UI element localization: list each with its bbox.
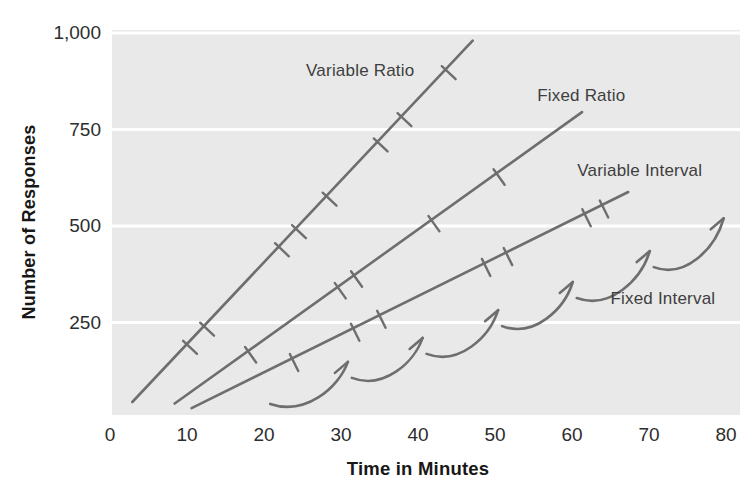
x-tick-label: 20 [242, 424, 286, 446]
x-tick-label: 70 [627, 424, 671, 446]
series-label-variable-interval: Variable Interval [577, 161, 702, 181]
x-tick-label: 80 [704, 424, 748, 446]
x-tick-label: 0 [88, 424, 132, 446]
x-tick-label: 10 [165, 424, 209, 446]
y-tick-label: 750 [0, 119, 101, 141]
reinforcement-schedules-chart: Number of Responses Time in Minutes 0102… [0, 0, 754, 502]
y-tick-label: 250 [0, 312, 101, 334]
x-tick-label: 60 [550, 424, 594, 446]
x-axis-title: Time in Minutes [347, 458, 489, 480]
x-tick-label: 50 [473, 424, 517, 446]
series-label-fixed-ratio: Fixed Ratio [537, 86, 625, 106]
y-tick-label: 500 [0, 215, 101, 237]
x-tick-label: 40 [396, 424, 440, 446]
series-label-fixed-interval: Fixed Interval [610, 289, 715, 309]
x-tick-label: 30 [319, 424, 363, 446]
series-label-variable-ratio: Variable Ratio [306, 61, 414, 81]
y-tick-label: 1,000 [0, 22, 101, 44]
